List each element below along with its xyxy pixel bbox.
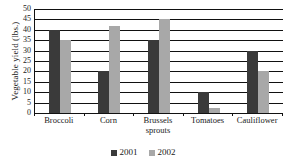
legend-label: 2002 — [158, 148, 176, 157]
y-axis-tick-label: 30 — [13, 47, 31, 55]
bar-2001-cauliflower — [247, 51, 258, 113]
chart-legend: 20012002 — [0, 148, 286, 157]
bar-group — [184, 9, 234, 113]
bar-2002-cauliflower — [258, 71, 269, 113]
x-axis-category-brussels-sprouts: Brusselssprouts — [133, 116, 183, 135]
x-axis-category-broccoli: Broccoli — [34, 116, 84, 135]
x-axis-category-label-line: Broccoli — [34, 116, 84, 126]
y-axis-tick-label: 35 — [13, 36, 31, 44]
bar-group — [134, 9, 184, 113]
x-axis-category-tomatoes: Tomatoes — [183, 116, 233, 135]
bar-2002-corn — [109, 26, 120, 113]
legend-swatch-icon — [149, 150, 155, 156]
legend-label: 2001 — [120, 148, 138, 157]
bar-2001-brussels-sprouts — [148, 40, 159, 113]
bar-chart-figure: Vegetable yield (lbs.) 05101520253035404… — [0, 0, 286, 165]
bar-2002-brussels-sprouts — [159, 19, 170, 113]
x-axis-category-corn: Corn — [84, 116, 134, 135]
y-axis-tick-label: 45 — [13, 15, 31, 23]
legend-entry-2002: 2002 — [149, 148, 176, 157]
x-axis-category-cauliflower: Cauliflower — [232, 116, 282, 135]
bar-2001-tomatoes — [198, 92, 209, 113]
y-axis-tick-label: 15 — [13, 78, 31, 86]
y-axis-tick-label: 40 — [13, 26, 31, 34]
bar-group — [85, 9, 135, 113]
y-axis-tick-label: 50 — [13, 5, 31, 13]
bar-group — [233, 9, 283, 113]
bar-2002-broccoli — [60, 40, 71, 113]
legend-entry-2001: 2001 — [111, 148, 138, 157]
y-axis-tick-label: 25 — [13, 57, 31, 65]
bars-layer — [35, 9, 283, 113]
legend-swatch-icon — [111, 150, 117, 156]
y-axis-tick-labels: 05101520253035404550 — [13, 9, 31, 113]
x-axis-tick-mark — [282, 113, 283, 116]
y-axis-tick-label: 0 — [13, 109, 31, 117]
y-axis-tick-label: 5 — [13, 99, 31, 107]
x-axis-category-label-line: Cauliflower — [232, 116, 282, 126]
bar-2001-corn — [98, 71, 109, 113]
y-axis-tick-label: 20 — [13, 67, 31, 75]
y-axis-tick-label: 10 — [13, 88, 31, 96]
bar-2001-broccoli — [49, 30, 60, 113]
plot-area — [34, 9, 283, 114]
x-axis-category-label-line: Corn — [84, 116, 134, 126]
x-axis-category-label-line: Tomatoes — [183, 116, 233, 126]
bar-group — [35, 9, 85, 113]
x-axis-category-label-line: sprouts — [133, 126, 183, 136]
x-axis-category-labels: BroccoliCornBrusselssproutsTomatoesCauli… — [34, 116, 282, 135]
